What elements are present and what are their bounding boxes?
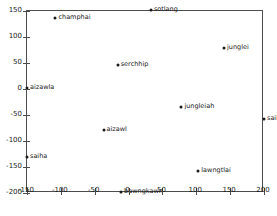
x-axis-tick-label: 50 xyxy=(157,186,166,194)
x-axis-tick-label: 150 xyxy=(222,186,235,194)
y-axis-tick-inner xyxy=(27,141,30,142)
data-point-label: saiha xyxy=(30,153,47,160)
x-axis-tick-label: 200 xyxy=(256,186,269,194)
scatter-plot-figure: sotlangchamphaijungleiserchhipaizawlajun… xyxy=(0,0,277,216)
y-axis-tick-inner xyxy=(27,63,30,64)
y-axis-tick-label: 150 xyxy=(9,6,22,14)
x-axis-tick-label: 100 xyxy=(189,186,202,194)
y-axis-tick-label: 100 xyxy=(9,32,22,40)
data-point xyxy=(116,64,119,67)
y-axis-tick-label: 0 xyxy=(18,84,22,92)
x-axis-tick-label: -50 xyxy=(88,186,99,194)
plot-axes: sotlangchamphaijungleiserchhipaizawlajun… xyxy=(26,10,263,192)
data-point xyxy=(197,170,200,173)
data-point-label: serchhip xyxy=(121,61,149,68)
data-point xyxy=(26,156,29,159)
y-axis-tick-inner xyxy=(27,115,30,116)
y-axis-tick-label: -50 xyxy=(11,110,22,118)
data-point-label: aizawla xyxy=(30,84,54,91)
y-axis-tick-inner xyxy=(27,89,30,90)
data-point-label: junglei xyxy=(227,44,249,51)
y-axis-tick-label: -100 xyxy=(6,136,22,144)
data-point-label: champhai xyxy=(58,14,90,21)
data-point xyxy=(149,8,152,11)
data-point-label: lawngtlai xyxy=(201,167,231,174)
y-axis-tick-inner xyxy=(27,37,30,38)
data-point xyxy=(223,46,226,49)
data-point-label: jungleiah xyxy=(184,103,214,110)
data-point xyxy=(102,129,105,132)
y-axis-tick-label: -200 xyxy=(6,188,22,196)
data-point-label: sotlang xyxy=(154,6,178,13)
y-axis-tick-label: 50 xyxy=(13,58,22,66)
data-point xyxy=(180,105,183,108)
y-axis-tick-label: -150 xyxy=(6,162,22,170)
y-axis-tick-inner xyxy=(27,167,30,168)
y-axis-tick-inner xyxy=(27,11,30,12)
data-point xyxy=(120,191,123,194)
x-axis-tick-label: 0 xyxy=(125,186,129,194)
data-point xyxy=(263,117,266,120)
plot-data-area: sotlangchamphaijungleiserchhipaizawlajun… xyxy=(27,11,262,191)
data-point xyxy=(54,17,57,20)
data-point-label: saiha xyxy=(267,115,277,122)
x-axis-tick-label: -100 xyxy=(52,186,68,194)
data-point-label: aizawl xyxy=(107,126,127,133)
